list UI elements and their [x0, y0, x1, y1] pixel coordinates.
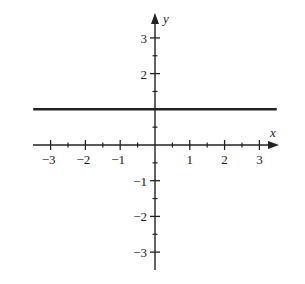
y-tick-label: 2	[141, 67, 148, 82]
y-tick-label: −3	[133, 245, 147, 260]
x-axis-arrow-icon	[268, 141, 279, 149]
x-tick-label: 3	[256, 152, 263, 167]
x-tick-label: −2	[76, 152, 90, 167]
x-tick-label: 1	[187, 152, 194, 167]
x-axis-label: x	[269, 125, 276, 140]
coordinate-plane: x y −3−2−112332−1−2−3	[0, 0, 305, 284]
x-tick-label: −3	[42, 152, 56, 167]
y-tick-label: −2	[133, 209, 147, 224]
x-tick-label: 2	[221, 152, 228, 167]
y-axis-label: y	[161, 11, 169, 26]
x-tick-label: −1	[111, 152, 125, 167]
y-tick-label: 3	[141, 31, 148, 46]
y-axis-arrow-icon	[151, 13, 159, 24]
y-tick-label: −1	[133, 174, 147, 189]
